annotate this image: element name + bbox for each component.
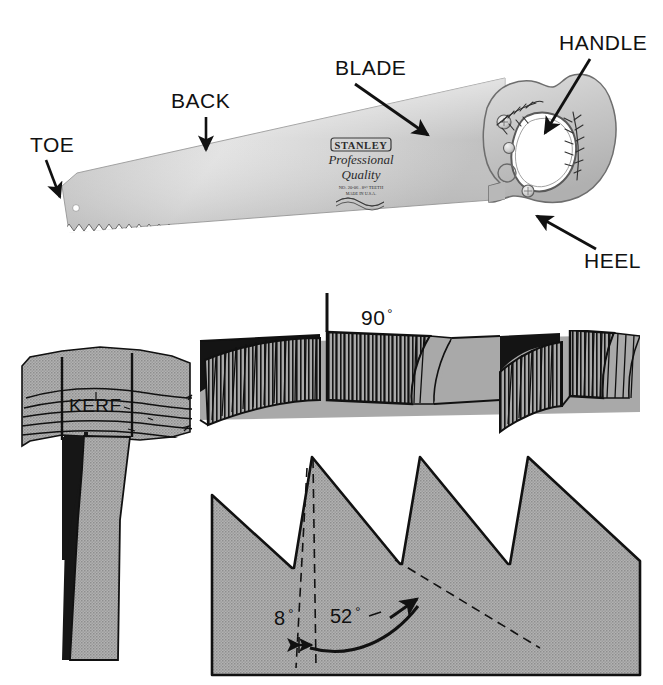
etch-line2: Professional [327, 152, 394, 167]
leader-toe [46, 160, 60, 197]
label-handle: HANDLE [559, 31, 647, 54]
etch-brand: STANLEY [334, 140, 387, 151]
tooth-profile-diagram: 8° 52° [212, 457, 640, 675]
saw-photograph: STANLEY Professional Quality NO. 20-06 .… [30, 31, 647, 272]
leader-heel [537, 216, 596, 249]
saw-blade: STANLEY Professional Quality NO. 20-06 .… [60, 78, 510, 240]
label-heel: HEEL [584, 249, 641, 272]
set-edge-bottom-2 [200, 420, 208, 425]
etch-line5: MADE IN U.S.A. [346, 191, 376, 196]
blade-sheen [62, 78, 505, 232]
etch-line3: Quality [342, 167, 381, 182]
tooth-set-diagram: 90° [200, 293, 640, 432]
label-90-degrees: 90° [361, 306, 393, 329]
label-toe: TOE [30, 133, 74, 156]
handsaw-figure: STANLEY Professional Quality NO. 20-06 .… [0, 0, 663, 685]
toe-hole [73, 205, 80, 212]
label-back: BACK [171, 89, 230, 112]
label-blade: BLADE [335, 56, 406, 79]
label-kerf: KERF [69, 395, 122, 416]
etch-line4: NO. 20-06 . 8½ TEETH [339, 185, 384, 190]
saw-handle [483, 74, 616, 202]
kerf-diagram: KERF [22, 347, 196, 660]
handle-screw-2 [504, 143, 515, 154]
tooth-profile-body [212, 457, 640, 675]
